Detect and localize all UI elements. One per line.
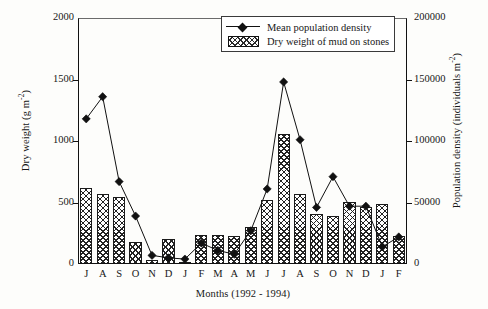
y-axis-left-tick-label: 500 [58,196,74,207]
population-density-line [86,82,399,259]
data-point-marker-8 [214,246,222,254]
y-axis-left-title: Dry weight (g m-2) [20,51,31,211]
data-point-marker-13 [296,136,304,144]
y-axis-right-tickmark [407,80,412,81]
legend-label-0: Mean population density [267,21,371,34]
y-axis-left-title-exponent: -2 [17,93,26,99]
data-point-marker-2 [115,177,123,185]
y-axis-left-title-text: Dry weight (g m [20,100,31,171]
legend-entry-dry-weight-of-mud: Dry weight of mud on stones [226,34,389,48]
line-series-population-density [78,18,407,264]
data-point-marker-16 [345,202,353,210]
y-axis-right-tick-label: 150000 [414,73,446,84]
crosshatch-swatch-icon [226,35,260,47]
y-axis-right-tickmark [407,141,412,142]
plot-area [78,18,407,264]
legend: Mean population density Dry weight of mu… [221,16,395,52]
data-point-marker-5 [164,254,172,262]
data-point-marker-11 [263,185,271,193]
y-axis-right-tick-label: 100000 [414,134,446,145]
legend-entry-mean-population-density: Mean population density [226,20,389,34]
y-axis-right-tickmark [407,203,412,204]
legend-label-1: Dry weight of mud on stones [267,35,389,48]
data-point-marker-9 [230,250,238,258]
chart-figure: Dry weight (g m-2) Population density (i… [0,0,488,309]
y-axis-left-tick-label: 1000 [53,134,74,145]
data-point-marker-12 [280,78,288,86]
y-axis-left-tick-label: 2000 [53,11,74,22]
y-axis-right-title-exponent: -2 [448,56,457,62]
line-diamond-marker-icon [226,21,260,33]
data-point-marker-10 [247,227,255,235]
x-axis-title: Months (1992 - 1994) [78,288,408,299]
y-axis-right-tick-label: 0 [414,257,419,268]
data-point-marker-19 [395,233,403,241]
data-point-marker-1 [99,93,107,101]
y-axis-right-title-close: ) [451,53,462,57]
x-axis-tick-label-19: F [389,268,409,279]
data-point-marker-4 [148,251,156,259]
y-axis-left-title-close: ) [20,90,31,94]
data-point-marker-17 [362,202,370,210]
data-point-marker-14 [312,203,320,211]
y-axis-right-tick-label: 200000 [414,11,446,22]
y-axis-right-title: Population density (individuals m-2) [451,31,462,231]
y-axis-left-tick-label: 1500 [53,73,74,84]
data-point-marker-18 [378,243,386,251]
y-axis-left-tick-label: 0 [69,257,74,268]
data-point-marker-15 [329,173,337,181]
data-point-marker-0 [82,115,90,123]
y-axis-right-tick-label: 50000 [414,196,440,207]
data-point-marker-3 [131,212,139,220]
y-axis-right-title-text: Population density (individuals m [451,63,462,208]
population-density-markers [82,78,403,263]
